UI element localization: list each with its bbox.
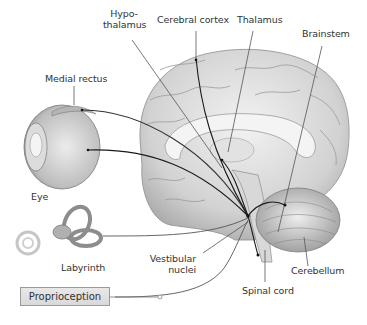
label-cerebral-cortex: Cerebral cortex [157,14,229,25]
label-hypothalamus-line1: Hypo- [103,8,145,19]
anatomy-illustration [0,0,367,325]
label-eye: Eye [31,191,48,202]
label-vestibular-line1: Vestibular [148,253,196,264]
label-vestibular-line2: nuclei [148,264,196,275]
label-labyrinth: Labyrinth [61,262,105,273]
diagram: Hypo- thalamus Cerebral cortex Thalamus … [0,0,367,325]
label-cerebellum: Cerebellum [291,265,344,276]
label-hypothalamus: Hypo- thalamus [103,8,145,30]
label-spinal-cord: Spinal cord [242,285,294,296]
label-hypothalamus-line2: thalamus [103,19,145,30]
synapse-marker [158,295,162,299]
cerebellum [256,188,340,252]
label-vestibular-nuclei: Vestibular nuclei [148,253,196,275]
eye [24,105,100,189]
labyrinth [17,203,101,254]
label-thalamus: Thalamus [237,14,283,25]
label-brainstem: Brainstem [302,28,350,39]
label-medial-rectus: Medial rectus [45,73,107,84]
proprioception-box: Proprioception [20,287,110,306]
